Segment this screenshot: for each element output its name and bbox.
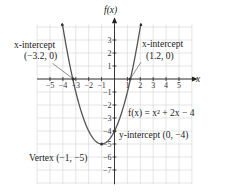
y-tick-label: −7: [103, 166, 112, 175]
vertex-label: Vertex (−1, −5): [29, 153, 87, 164]
y-axis-label: f(x): [104, 5, 117, 16]
x-tick-label: 3: [151, 81, 155, 90]
y-tick-label: −2: [103, 101, 112, 110]
y-axis-arrow-icon: [112, 17, 117, 23]
x-axis-label: x: [195, 74, 201, 84]
x-intercept-right-coords: (1.2, 0): [146, 51, 174, 62]
vertex-point: [100, 143, 103, 146]
x-intercept-left-coords: (−3.2, 0): [24, 51, 57, 62]
x-tick-label: −3: [72, 81, 81, 90]
curve-end-right-dot: [140, 24, 143, 27]
y-intercept-label: y-intercept (0, −4): [119, 130, 188, 141]
x-intercept-left-label: x-intercept: [14, 40, 56, 50]
parabola-chart: −5−4−3−2−112345321−1−2−3−4−5−6−7 f(x) x …: [0, 0, 225, 194]
x-tick-label: 2: [138, 81, 142, 90]
y-tick-label: −4: [103, 127, 112, 136]
y-intercept-point: [113, 130, 116, 133]
function-label: f(x) = x² + 2x − 4: [128, 108, 195, 119]
y-tick-label: 3: [108, 36, 112, 45]
y-tick-label: −3: [103, 114, 112, 123]
y-tick-label: 2: [108, 49, 112, 58]
curve-end-left-dot: [61, 24, 64, 27]
y-tick-label: −6: [103, 153, 112, 162]
x-tick-label: −4: [59, 81, 68, 90]
x-intercept-right-label: x-intercept: [142, 39, 184, 49]
x-tick-label: −5: [46, 81, 55, 90]
y-tick-label: 1: [108, 62, 112, 71]
y-tick-label: −1: [103, 88, 112, 97]
x-tick-label: 4: [164, 81, 168, 90]
x-tick-label: −2: [84, 81, 93, 90]
x-tick-label: 5: [177, 81, 181, 90]
